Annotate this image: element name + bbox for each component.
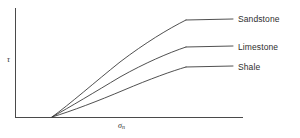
curve-shale [52, 67, 186, 117]
leader-line-shale [186, 66, 233, 67]
leader-line-sandstone [186, 19, 233, 20]
y-axis-label: τ [7, 56, 10, 64]
failure-envelope-chart: Sandstone Limestone Shale τ σn [0, 0, 300, 138]
series-label-shale: Shale [238, 63, 260, 72]
series-label-sandstone: Sandstone [238, 15, 280, 24]
series-label-limestone: Limestone [238, 43, 278, 52]
leader-line-limestone [186, 46, 233, 47]
curve-sandstone [52, 20, 186, 117]
x-axis-label: σn [118, 122, 125, 130]
x-axis-subscript: n [122, 124, 125, 130]
curve-limestone [52, 47, 186, 117]
